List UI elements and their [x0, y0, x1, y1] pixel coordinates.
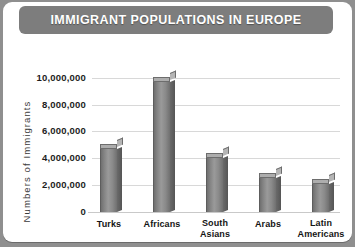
bar-side-latin-americans	[329, 182, 334, 212]
bar-side-arabs	[276, 176, 281, 212]
bar-side-africans	[170, 80, 175, 212]
bar-arabs	[259, 178, 276, 212]
y-axis-title-holder: Numbers of Immigrants	[8, 60, 24, 215]
x-label-latin-americans: Latin Americans	[288, 218, 354, 239]
gridline-6000000	[92, 131, 340, 132]
x-label-latin-americans-line1: Latin	[288, 218, 354, 229]
bar-africans	[153, 82, 170, 212]
bar-turks	[100, 149, 117, 212]
gridline-8000000	[92, 105, 340, 106]
chart-figure: IMMIGRANT POPULATIONS IN EUROPE 10,000,0…	[0, 0, 355, 247]
bar-front-latin-americans	[312, 184, 329, 212]
bar-front-arabs	[259, 178, 276, 212]
bar-south-asians	[206, 158, 223, 212]
plot-area: 10,000,000 8,000,000 6,000,000 4,000,000…	[0, 0, 355, 247]
x-label-latin-americans-line2: Americans	[288, 229, 354, 240]
bar-side-south-asians	[223, 156, 228, 212]
gridline-10000000	[92, 78, 340, 79]
bar-front-turks	[100, 149, 117, 212]
bar-front-africans	[153, 82, 170, 212]
y-axis-title: Numbers of Immigrants	[21, 92, 32, 232]
axis-baseline	[88, 212, 340, 213]
bar-side-turks	[117, 147, 122, 212]
bar-front-south-asians	[206, 158, 223, 212]
x-label-south-asians-line2: Asians	[182, 229, 248, 240]
bar-latin-americans	[312, 184, 329, 212]
